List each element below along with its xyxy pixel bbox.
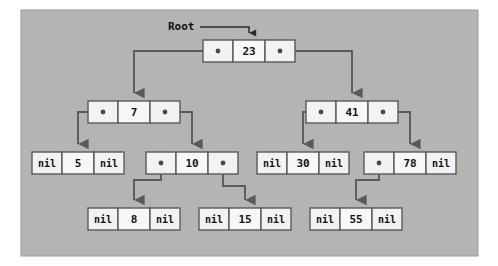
node-value-text: 7 bbox=[131, 106, 138, 119]
node-right-nil-text: nil bbox=[378, 214, 396, 225]
tree-node-55[interactable]: nil55nil bbox=[310, 208, 402, 230]
node-right-pointer-dot bbox=[221, 161, 226, 166]
node-right-pointer-dot bbox=[381, 110, 386, 115]
tree-node-41[interactable]: 41 bbox=[306, 101, 398, 123]
node-left-pointer-dot bbox=[319, 110, 324, 115]
node-left-pointer-dot bbox=[377, 161, 382, 166]
node-value-text: 8 bbox=[131, 213, 138, 226]
node-value-text: 55 bbox=[349, 213, 362, 226]
tree-node-10[interactable]: 10 bbox=[146, 152, 238, 174]
tree-node-30[interactable]: nil30nil bbox=[257, 152, 349, 174]
tree-node-23[interactable]: 23 bbox=[203, 40, 295, 62]
node-left-pointer-dot bbox=[101, 110, 106, 115]
node-left-pointer-dot bbox=[216, 49, 221, 54]
node-left-pointer-dot bbox=[159, 161, 164, 166]
node-left-nil-text: nil bbox=[38, 158, 56, 169]
node-value-text: 15 bbox=[238, 213, 251, 226]
bst-diagram-figure: Root 23741nil5nil10nil30nil78nilnil8niln… bbox=[0, 0, 498, 266]
node-left-nil-text: nil bbox=[263, 158, 281, 169]
tree-node-78[interactable]: 78nil bbox=[364, 152, 456, 174]
node-right-nil-text: nil bbox=[325, 158, 343, 169]
tree-node-5[interactable]: nil5nil bbox=[32, 152, 124, 174]
node-right-nil-text: nil bbox=[432, 158, 450, 169]
node-value-text: 78 bbox=[403, 157, 416, 170]
node-value-text: 30 bbox=[296, 157, 309, 170]
node-right-pointer-dot bbox=[163, 110, 168, 115]
bst-diagram-canvas: Root 23741nil5nil10nil30nil78nilnil8niln… bbox=[0, 0, 498, 266]
node-value-text: 23 bbox=[242, 45, 255, 58]
tree-node-15[interactable]: nil15nil bbox=[199, 208, 291, 230]
node-right-nil-text: nil bbox=[267, 214, 285, 225]
tree-node-7[interactable]: 7 bbox=[88, 101, 180, 123]
node-value-text: 41 bbox=[345, 106, 359, 119]
node-left-nil-text: nil bbox=[316, 214, 334, 225]
node-right-nil-text: nil bbox=[156, 214, 174, 225]
node-right-nil-text: nil bbox=[100, 158, 118, 169]
node-left-nil-text: nil bbox=[205, 214, 223, 225]
node-value-text: 5 bbox=[75, 157, 82, 170]
tree-node-8[interactable]: nil8nil bbox=[88, 208, 180, 230]
node-right-pointer-dot bbox=[278, 49, 283, 54]
node-value-text: 10 bbox=[185, 157, 198, 170]
node-left-nil-text: nil bbox=[94, 214, 112, 225]
root-label: Root bbox=[168, 20, 195, 33]
